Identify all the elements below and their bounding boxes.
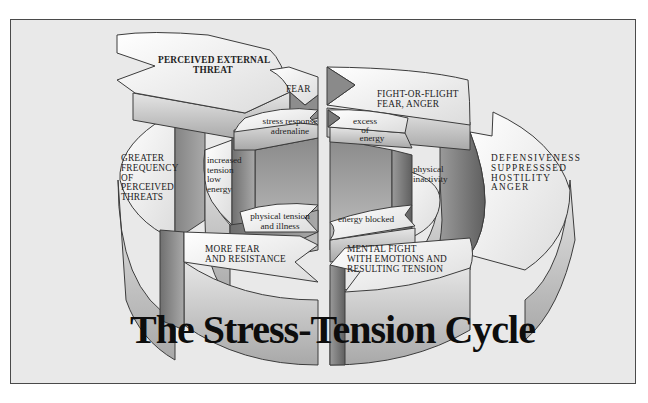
- label-increased-tension: increased tension low energy: [207, 156, 242, 195]
- label-stress-response: stress response adrenaline: [255, 117, 325, 136]
- label-greater-frequency: GREATER FREQUENCY OF PERCEIVED THREATS: [121, 154, 179, 203]
- label-mental-fight: MENTAL FIGHT WITH EMOTIONS AND RESULTING…: [347, 245, 447, 274]
- label-line: FEAR, ANGER: [377, 100, 459, 110]
- label-physical-inactivity: physical inactivity: [413, 165, 448, 184]
- label-line: adrenaline: [255, 127, 325, 137]
- label-fight-or-flight: FIGHT-OR-FLIGHT FEAR, ANGER: [377, 90, 459, 110]
- label-line: FEAR: [286, 84, 311, 94]
- label-line: RESULTING TENSION: [347, 265, 447, 275]
- label-fear: FEAR: [286, 85, 311, 95]
- label-perceived-external-threat: PERCEIVED EXTERNAL THREAT: [158, 56, 268, 76]
- label-more-fear: MORE FEAR AND RESISTANCE: [205, 245, 286, 265]
- label-line: energy: [335, 134, 395, 143]
- label-line: THREATS: [121, 193, 179, 203]
- label-excess-of-energy: excess of energy: [335, 117, 395, 143]
- label-energy-blocked: energy blocked: [338, 215, 394, 225]
- label-line: energy: [207, 185, 242, 195]
- label-defensiveness: DEFENSIVENESS SUPPRESSSED HOSTILITY ANGE…: [491, 154, 581, 193]
- label-physical-tension: physical tension and illness: [245, 212, 315, 231]
- diagram-title: The Stress-Tension Cycle: [130, 306, 530, 353]
- label-line: ANGER: [491, 183, 581, 193]
- label-line: THREAT: [158, 66, 268, 76]
- label-line: and illness: [245, 222, 315, 232]
- label-line: energy blocked: [338, 214, 394, 224]
- label-line: inactivity: [413, 175, 448, 185]
- label-line: AND RESISTANCE: [205, 255, 286, 265]
